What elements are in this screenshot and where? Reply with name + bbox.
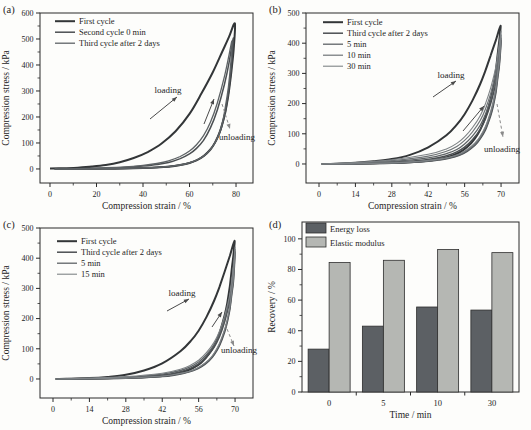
- figure-panels: (a)0100200300400500600Compression stress…: [0, 0, 531, 430]
- annotation-unloading: unloading: [219, 132, 255, 142]
- y-tick-label: 100: [22, 345, 34, 354]
- bar-energy-loss: [308, 349, 329, 392]
- x-tick-label: 70: [231, 405, 239, 414]
- arrowhead: [210, 99, 214, 105]
- annotation-unloading: unloading: [221, 345, 257, 355]
- legend-label: Energy loss: [330, 224, 370, 234]
- legend-swatch: [306, 237, 326, 247]
- y-tick-label: 300: [288, 69, 300, 78]
- x-tick-label: 28: [122, 405, 130, 414]
- curve-second-cycle-0-min: [55, 38, 234, 169]
- x-tick-label: 60: [186, 190, 194, 199]
- panel-b-chart: (b)0100200300400500Compression stress / …: [266, 0, 531, 215]
- y-tick-label: 200: [288, 99, 300, 108]
- y-tick-label: 100: [284, 235, 296, 244]
- annotation-loading: loading: [438, 70, 465, 80]
- annotation-unloading: unloading: [484, 144, 520, 154]
- legend-label: First cycle: [81, 236, 117, 246]
- x-tick-label: 42: [424, 190, 432, 199]
- panel-letter: (b): [269, 4, 282, 16]
- annotation-loading: loading: [169, 288, 196, 298]
- x-tick-label: 70: [497, 190, 505, 199]
- x-tick-label: 14: [85, 405, 93, 414]
- legend-label: First cycle: [347, 17, 383, 27]
- x-tick-label: 42: [158, 405, 166, 414]
- legend-label: Elastic modulus: [330, 238, 385, 248]
- bar-energy-loss: [471, 310, 492, 392]
- y-tick-label: 60: [288, 296, 296, 305]
- x-category-label: 0: [327, 398, 331, 408]
- legend-label: 5 min: [81, 258, 101, 268]
- y-tick-label: 40: [288, 327, 296, 336]
- y-tick-label: 0: [292, 388, 296, 397]
- y-tick-label: 0: [30, 375, 34, 384]
- y-tick-label: 400: [288, 39, 300, 48]
- legend-label: 10 min: [347, 50, 372, 60]
- y-tick-label: 200: [22, 314, 34, 323]
- x-tick-label: 28: [388, 190, 396, 199]
- panel-letter: (c): [3, 219, 15, 231]
- curve-third-cycle-after-2-days: [55, 41, 233, 169]
- annotation-loading: loading: [155, 85, 182, 95]
- y-tick-label: 500: [22, 35, 34, 44]
- y-tick-label: 300: [22, 87, 34, 96]
- legend-label: 30 min: [347, 61, 372, 71]
- loading-direction-arrow: [150, 97, 177, 119]
- y-tick-label: 400: [22, 254, 34, 263]
- y-axis-label: Compression stress / kPa: [1, 265, 11, 361]
- y-axis-label: Recovery / %: [267, 281, 277, 333]
- x-tick-label: 0: [48, 190, 52, 199]
- x-tick-label: 14: [351, 190, 359, 199]
- y-axis-label: Compression stress / kPa: [1, 50, 11, 146]
- y-tick-label: 400: [22, 61, 34, 70]
- legend-label: 5 min: [347, 39, 367, 49]
- arrowhead: [227, 124, 231, 129]
- x-category-label: 10: [433, 398, 442, 408]
- legend-label: Third cycle after 2 days: [79, 38, 160, 48]
- legend-label: Third cycle after 2 days: [81, 247, 162, 257]
- x-axis-label: Compression strain / %: [102, 416, 191, 426]
- legend-label: 15 min: [81, 269, 106, 279]
- x-tick-label: 56: [195, 405, 203, 414]
- x-tick-label: 0: [317, 190, 321, 199]
- x-axis-label: Time / min: [390, 410, 432, 420]
- bar-elastic-modulus: [492, 253, 513, 392]
- panel-a-chart: (a)0100200300400500600Compression stress…: [0, 0, 265, 215]
- y-tick-label: 80: [288, 265, 296, 274]
- legend-swatch: [306, 223, 326, 233]
- panel-letter: (a): [3, 4, 15, 16]
- y-tick-label: 200: [22, 113, 34, 122]
- panel-d-chart: (d)020406080100Recovery / %Time / min051…: [266, 215, 531, 430]
- x-tick-label: 40: [139, 190, 147, 199]
- panel-letter: (d): [269, 219, 282, 231]
- arrowhead: [451, 81, 456, 86]
- x-tick-label: 56: [461, 190, 469, 199]
- y-tick-label: 0: [30, 165, 34, 174]
- arrowhead: [184, 299, 189, 303]
- y-tick-label: 0: [296, 160, 300, 169]
- y-tick-label: 20: [288, 357, 296, 366]
- arrowhead: [217, 312, 222, 317]
- y-tick-label: 500: [22, 224, 34, 233]
- x-category-label: 5: [381, 398, 385, 408]
- y-tick-label: 600: [22, 9, 34, 18]
- y-tick-label: 100: [22, 139, 34, 148]
- x-tick-label: 20: [93, 190, 101, 199]
- arrowhead: [500, 132, 504, 137]
- y-axis-label: Compression stress / kPa: [267, 50, 277, 146]
- x-tick-label: 0: [51, 405, 55, 414]
- legend-label: Second cycle 0 min: [79, 27, 147, 37]
- y-tick-label: 300: [22, 284, 34, 293]
- legend-label: Third cycle after 2 days: [347, 28, 428, 38]
- x-tick-label: 80: [232, 190, 240, 199]
- y-tick-label: 100: [288, 130, 300, 139]
- bar-elastic-modulus: [438, 250, 459, 392]
- bar-energy-loss: [417, 307, 438, 392]
- legend-label: First cycle: [79, 16, 115, 26]
- x-axis-label: Compression strain / %: [102, 201, 191, 211]
- bar-elastic-modulus: [329, 263, 350, 392]
- y-tick-label: 500: [288, 9, 300, 18]
- panel-c-chart: (c)0100200300400500Compression stress / …: [0, 215, 265, 430]
- x-category-label: 30: [488, 398, 497, 408]
- bar-elastic-modulus: [383, 260, 404, 392]
